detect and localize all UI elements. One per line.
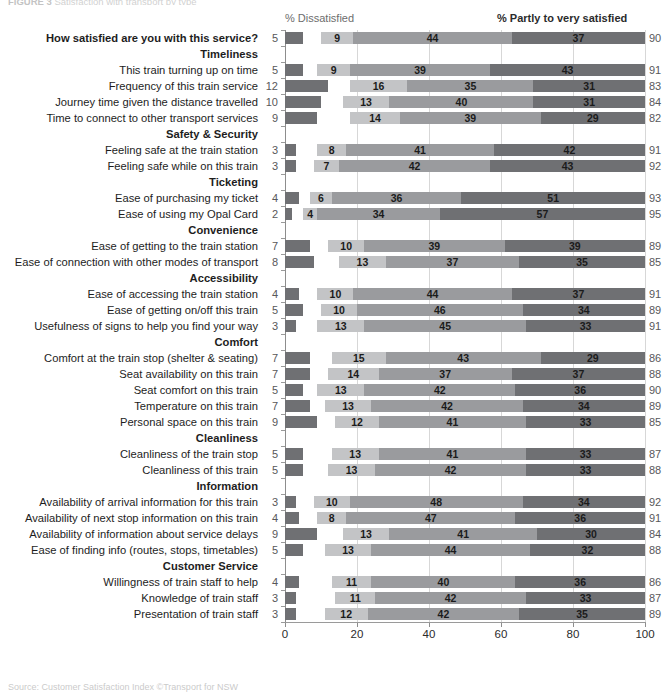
bar-segment-very-satisfied: 37 [512, 288, 645, 300]
bar-segment-value: 33 [526, 416, 645, 428]
bar-track: 104834 [285, 496, 645, 508]
bar-track: 103939 [285, 240, 645, 252]
bar-segment-value: 39 [364, 240, 504, 252]
header-satisfied: % Partly to very satisfied [497, 12, 627, 24]
bar-segment-satisfied: 45 [364, 320, 526, 332]
tick-stub [281, 382, 285, 383]
tick-stub [281, 318, 285, 319]
tick-stub [281, 430, 285, 431]
bar-segment-satisfied: 41 [379, 448, 527, 460]
bar-segment-value: 31 [533, 96, 645, 108]
bar-segment-partly-satisfied: 4 [303, 208, 317, 220]
bar-segment-value: 37 [512, 32, 645, 44]
bar-segment-dissatisfied [285, 496, 296, 508]
bar-segment-value: 37 [512, 288, 645, 300]
bar-segment-satisfied: 37 [386, 256, 519, 268]
total-satisfied-value: 91 [649, 143, 669, 157]
bar-segment-value: 37 [379, 368, 512, 380]
item-label: Comfort at the train stop (shelter & sea… [44, 351, 258, 365]
bar-segment-dissatisfied [285, 96, 321, 108]
tick-stub [281, 334, 285, 335]
bar-segment-satisfied: 44 [371, 544, 529, 556]
bar-segment-very-satisfied: 32 [530, 544, 645, 556]
bar-segment-partly-satisfied: 7 [314, 160, 339, 172]
bar-segment-value: 35 [519, 608, 645, 620]
item-label: Ease of connection with other modes of t… [15, 255, 258, 269]
chart-row: Willingness of train staff to help411403… [0, 574, 669, 590]
chart-row: Knowledge of train staff311423387 [0, 590, 669, 606]
bar-segment-partly-satisfied: 13 [343, 96, 390, 108]
item-label: Presentation of train staff [134, 607, 258, 621]
bar-segment-partly-satisfied: 16 [350, 80, 408, 92]
tick-stub [281, 222, 285, 223]
tick-stub [281, 606, 285, 607]
bar-segment-satisfied: 35 [407, 80, 533, 92]
bar-segment-satisfied: 40 [371, 576, 515, 588]
total-satisfied-value: 88 [649, 463, 669, 477]
bar-segment-partly-satisfied: 11 [332, 576, 372, 588]
bar-segment-partly-satisfied: 9 [321, 32, 353, 44]
item-label: Availability of next stop information on… [25, 511, 258, 525]
bar-segment-value: 13 [325, 400, 372, 412]
category-label: Safety & Security [166, 127, 258, 141]
tick-stub [281, 206, 285, 207]
bar-segment-value: 7 [314, 160, 339, 172]
bar-segment-value: 40 [389, 96, 533, 108]
bar-segment-partly-satisfied: 13 [317, 384, 364, 396]
bar-segment-value: 14 [328, 368, 378, 380]
tick-stub [281, 158, 285, 159]
bar-track: 134133 [285, 448, 645, 460]
bar-segment-dissatisfied [285, 80, 328, 92]
total-satisfied-value: 85 [649, 255, 669, 269]
figure-caption: FIGURE 3 Satisfaction with transport by … [8, 0, 197, 5]
bar-segment-very-satisfied: 33 [526, 592, 645, 604]
bar-segment-very-satisfied: 36 [515, 384, 645, 396]
bar-segment-satisfied: 41 [346, 144, 494, 156]
bar-segment-value: 36 [515, 512, 645, 524]
bar-segment-very-satisfied: 35 [519, 256, 645, 268]
bar-segment-satisfied: 48 [350, 496, 523, 508]
bar-segment-value: 11 [332, 576, 372, 588]
dissatisfied-value: 10 [262, 95, 278, 109]
bar-segment-partly-satisfied: 13 [325, 400, 372, 412]
source-note: Source: Customer Satisfaction Index ©Tra… [8, 682, 238, 692]
total-satisfied-value: 89 [649, 607, 669, 621]
item-label: Feeling safe at the train station [105, 143, 258, 157]
bar-segment-value: 42 [368, 608, 519, 620]
total-satisfied-value: 92 [649, 159, 669, 173]
bar-segment-value: 37 [386, 256, 519, 268]
bar-segment-value: 13 [328, 464, 375, 476]
bar-segment-value: 10 [328, 240, 364, 252]
bar-segment-very-satisfied: 29 [541, 112, 645, 124]
chart-row: Ease of getting on/off this train5104634… [0, 302, 669, 318]
bar-segment-very-satisfied: 43 [490, 160, 645, 172]
tick-stub [281, 590, 285, 591]
bar-segment-dissatisfied [285, 512, 299, 524]
bar-segment-value: 41 [379, 448, 527, 460]
header-dissatisfied: % Dissatisfied [285, 12, 354, 24]
bar-track: 84736 [285, 512, 645, 524]
tick-stub [281, 238, 285, 239]
bar-segment-very-satisfied: 57 [440, 208, 645, 220]
bar-segment-satisfied: 41 [379, 416, 527, 428]
bar-segment-very-satisfied: 33 [526, 416, 645, 428]
dissatisfied-value: 5 [262, 463, 278, 477]
bar-segment-partly-satisfied: 6 [310, 192, 332, 204]
dissatisfied-value: 4 [262, 287, 278, 301]
bar-segment-dissatisfied [285, 352, 310, 364]
chart-row: Frequency of this train service121635318… [0, 78, 669, 94]
dissatisfied-value: 5 [262, 447, 278, 461]
chart-row: Availability of next stop information on… [0, 510, 669, 526]
dissatisfied-value: 3 [262, 143, 278, 157]
total-satisfied-value: 91 [649, 511, 669, 525]
item-label: Ease of getting to the train station [91, 239, 258, 253]
dissatisfied-value: 5 [262, 303, 278, 317]
tick-label: 80 [567, 628, 580, 640]
column-headers: % Dissatisfied % Partly to very satisfie… [0, 12, 669, 28]
tick-stub [281, 446, 285, 447]
chart-row: Personal space on this train912413385 [0, 414, 669, 430]
bar-segment-satisfied: 39 [400, 112, 540, 124]
tick-label: 20 [351, 628, 364, 640]
bar-segment-value: 29 [541, 352, 645, 364]
item-label: Ease of purchasing my ticket [115, 191, 258, 205]
